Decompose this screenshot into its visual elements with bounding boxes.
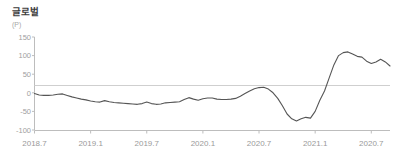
- x-axis-tick-label: 2020.1: [191, 139, 216, 148]
- x-axis-tick-label: 2019.7: [135, 139, 160, 148]
- data-series-line: [35, 52, 391, 121]
- x-axis-tick-label: 2020.7: [247, 139, 272, 148]
- x-axis-tick-label: 2020.7: [359, 139, 384, 148]
- x-axis-tick-label: 2021.1: [303, 139, 328, 148]
- y-axis-tick-label: 50: [23, 70, 31, 79]
- x-axis-tick-labels: 2018.72019.12019.72020.12020.72021.12020…: [22, 139, 384, 148]
- x-axis-tick-label: 2019.1: [78, 139, 103, 148]
- x-axis-tick-label: 2018.7: [22, 139, 47, 148]
- y-axis-tick-labels: 150100500-50-100: [16, 33, 31, 135]
- y-axis-tick-label: -100: [16, 126, 31, 135]
- global-index-chart-panel: 글로벌 (P) 150100500-50-100 2018.72019.1201…: [0, 0, 396, 153]
- y-axis-tick-label: 0: [27, 89, 31, 98]
- chart-plot-area: 150100500-50-100 2018.72019.12019.72020.…: [0, 0, 396, 153]
- y-axis-tick-label: -50: [20, 107, 31, 116]
- y-axis-tick-label: 150: [18, 33, 31, 42]
- y-axis-tick-label: 100: [18, 51, 31, 60]
